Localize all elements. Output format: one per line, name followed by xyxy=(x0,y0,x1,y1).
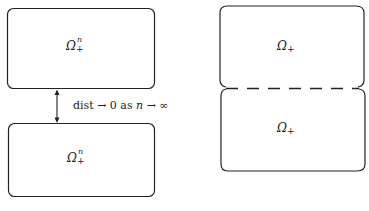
right-bottom-region-label: Ω+ xyxy=(277,122,295,134)
omega-symbol: Ω xyxy=(66,40,76,52)
as-word: as xyxy=(120,99,132,112)
left-bottom-region-label: Ωn+ xyxy=(67,152,85,164)
omega-symbol: Ω xyxy=(277,40,287,52)
zero-value: 0 xyxy=(110,99,117,112)
n-variable: n xyxy=(136,99,143,112)
right-top-region-label: Ω+ xyxy=(277,40,295,52)
arrow-symbol: → xyxy=(147,99,156,112)
distance-arrow xyxy=(55,90,60,124)
superscript-n: n xyxy=(77,36,82,44)
omega-symbol: Ω xyxy=(277,122,287,134)
diagram-canvas xyxy=(0,0,369,211)
subscript-plus: + xyxy=(287,45,295,54)
infinity-symbol: ∞ xyxy=(159,99,168,112)
omega-symbol: Ω xyxy=(67,152,77,164)
subscript-plus: + xyxy=(77,157,85,166)
subscript-plus: + xyxy=(76,45,84,54)
superscript-n: n xyxy=(78,148,83,156)
dist-word: dist xyxy=(73,99,94,112)
distance-label: dist → 0 as n → ∞ xyxy=(73,100,169,111)
subscript-plus: + xyxy=(287,127,295,136)
arrow-symbol: → xyxy=(97,99,106,112)
left-top-region-label: Ωn+ xyxy=(66,40,84,52)
